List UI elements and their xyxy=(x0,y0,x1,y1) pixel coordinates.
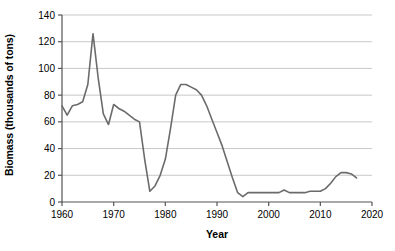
x-tick-label: 1970 xyxy=(103,209,126,220)
y-tick-label: 100 xyxy=(38,63,55,74)
y-tick-label: 60 xyxy=(44,116,56,127)
y-tick-label: 0 xyxy=(49,197,55,208)
x-tick-group: 1960197019801990200020102020 xyxy=(51,202,384,220)
plot-area: 020406080100120140 196019701980199020002… xyxy=(0,0,395,251)
biomass-data-line xyxy=(62,34,357,197)
x-tick-label: 2010 xyxy=(309,209,332,220)
gridlines-group xyxy=(62,15,372,175)
y-tick-label: 120 xyxy=(38,36,55,47)
y-tick-group: 020406080100120140 xyxy=(38,10,62,208)
x-axis-title: Year xyxy=(62,228,372,240)
biomass-line-chart: Biomass (thousands of tons) 020406080100… xyxy=(0,0,395,251)
x-tick-label: 1980 xyxy=(154,209,177,220)
x-tick-label: 2020 xyxy=(361,209,384,220)
y-tick-label: 40 xyxy=(44,143,56,154)
y-tick-label: 140 xyxy=(38,10,55,21)
x-tick-label: 1990 xyxy=(206,209,229,220)
y-tick-label: 20 xyxy=(44,170,56,181)
y-tick-label: 80 xyxy=(44,90,56,101)
x-tick-label: 2000 xyxy=(258,209,281,220)
x-tick-label: 1960 xyxy=(51,209,74,220)
